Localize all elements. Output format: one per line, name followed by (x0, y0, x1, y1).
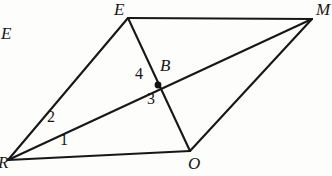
angle-label-4: 4 (135, 66, 143, 82)
vertex-label-o: O (188, 155, 200, 172)
angle-label-3: 3 (147, 91, 155, 107)
geometry-figure: E E M R O B 1 2 3 4 (0, 0, 332, 176)
vertex-label-e: E (114, 1, 124, 18)
diagonal-R-M (8, 19, 312, 160)
edge-R-E (8, 18, 128, 160)
vertex-label-b: B (160, 57, 170, 74)
angle-label-1: 1 (60, 132, 68, 148)
stray-label-e: E (1, 25, 11, 42)
vertex-label-r: R (0, 154, 8, 171)
edge-group (8, 18, 312, 160)
angle-label-2: 2 (47, 109, 55, 125)
edge-R-O (8, 151, 190, 160)
vertex-label-m: M (316, 1, 330, 18)
intersection-point-B (155, 82, 162, 89)
edge-E-M (128, 18, 312, 19)
edge-O-M (190, 19, 312, 151)
figure-canvas (0, 0, 332, 176)
